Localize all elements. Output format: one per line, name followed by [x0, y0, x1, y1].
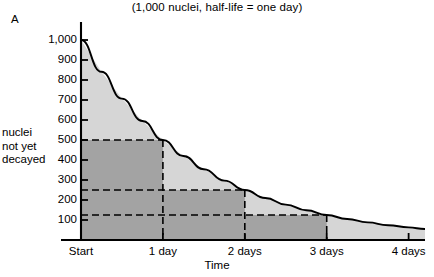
x-tick-label: 2 days: [213, 245, 277, 257]
y-tick-label: 700: [33, 93, 77, 105]
y-tick-label: 600: [33, 113, 77, 125]
y-tick-label: 900: [33, 53, 77, 65]
y-tick-label: 200: [33, 193, 77, 205]
y-tick-label: 500: [33, 133, 77, 145]
y-tick-label: 100: [33, 213, 77, 225]
decay-chart-figure: (1,000 nuclei, half-life = one day) A nu…: [0, 0, 434, 277]
x-tick-label: 3 days: [295, 245, 359, 257]
y-tick-label: 400: [33, 153, 77, 165]
y-tick-label: 800: [33, 73, 77, 85]
y-tick-label: 300: [33, 173, 77, 185]
x-tick-label: 4 days: [377, 245, 434, 257]
y-tick-label: 1,000: [33, 33, 77, 45]
x-tick-label: Start: [49, 245, 113, 257]
x-tick-label: 1 day: [131, 245, 195, 257]
